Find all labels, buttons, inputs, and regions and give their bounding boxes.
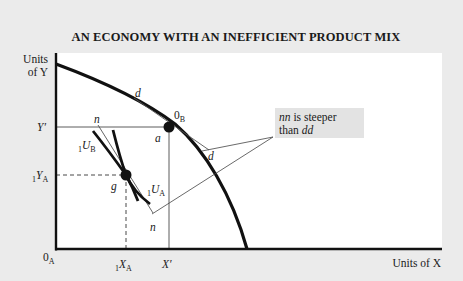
diagram-figure: AN ECONOMY WITH AN INEFFICIENT PRODUCT M… — [0, 0, 463, 281]
point-g-label: g — [111, 180, 117, 193]
d-label-top: d — [135, 87, 141, 99]
diagram-title: AN ECONOMY WITH AN INEFFICIENT PRODUCT M… — [72, 30, 401, 44]
ya-label: 1YA — [32, 169, 48, 184]
n-label-bottom: n — [150, 221, 156, 233]
x-prime-label: X′ — [161, 258, 172, 270]
origin-label: 0A — [43, 251, 55, 266]
y-prime-label: Y′ — [37, 121, 46, 133]
d-label-bottom: d — [208, 150, 214, 162]
callout-text-line1: nn is steeper — [279, 111, 337, 124]
n-label-top: n — [94, 113, 100, 125]
callout-text-line2: than dd — [279, 124, 313, 136]
y-axis-label-line2: of Y — [28, 66, 49, 78]
xa-label: 1XA — [115, 258, 132, 273]
point-g — [121, 170, 132, 181]
point-a-label: a — [155, 132, 161, 144]
y-axis-label-line1: Units — [23, 53, 48, 65]
point-ob — [164, 122, 175, 133]
x-axis-label: Units of X — [392, 257, 441, 269]
